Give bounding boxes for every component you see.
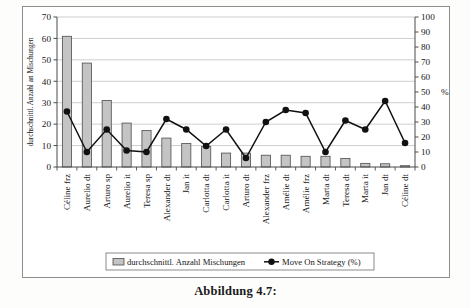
data-point-marker xyxy=(243,155,250,162)
combo-chart: 010203040506070 0102030405060708090100 C… xyxy=(23,7,449,277)
y-axis-right-tick-label: 70 xyxy=(421,57,431,67)
x-axis-category-label: Carlotta dt xyxy=(201,174,211,213)
data-point-marker xyxy=(322,149,329,156)
bar xyxy=(62,36,71,167)
x-axis-category-label: Amélie dt xyxy=(281,174,291,211)
y-axis-right-tick-label: 10 xyxy=(421,147,431,157)
bars-group xyxy=(62,36,409,167)
y-axis-left-tick-label: 60 xyxy=(42,34,52,44)
data-point-marker xyxy=(203,143,210,150)
legend-swatch-bars xyxy=(113,259,124,266)
legend-label-moveon: Move On Strategy (%) xyxy=(282,257,361,267)
x-axis-category-label: Aurelio it xyxy=(122,174,132,210)
x-axis-category-label: Amélie frz xyxy=(301,174,311,213)
data-point-marker xyxy=(382,98,389,105)
bar xyxy=(341,158,350,167)
x-axis-category-label: Arturo dt xyxy=(241,174,251,208)
data-point-marker xyxy=(103,126,110,133)
x-axis-category-label: Arturo sp xyxy=(102,174,112,209)
y-left-tick-labels: 010203040506070 xyxy=(42,12,52,172)
bar xyxy=(162,138,171,167)
data-point-marker xyxy=(302,110,309,117)
data-point-marker xyxy=(402,140,409,147)
y-right-tick-labels: 0102030405060708090100 xyxy=(421,12,435,172)
bar xyxy=(182,143,191,167)
y-axis-left-title: durchschnittl. Anzahl an Mischungen xyxy=(26,37,35,146)
data-point-marker xyxy=(223,126,230,133)
data-point-marker xyxy=(84,149,91,156)
y-axis-left-tick-label: 70 xyxy=(42,12,52,22)
line-series-group xyxy=(64,98,409,162)
bar xyxy=(361,163,370,167)
data-point-marker xyxy=(362,126,369,133)
data-point-marker xyxy=(342,117,349,124)
bar xyxy=(261,155,270,167)
chart-frame: 010203040506070 0102030405060708090100 C… xyxy=(22,6,450,278)
y-axis-left-tick-label: 40 xyxy=(42,77,52,87)
y-axis-left-tick-label: 30 xyxy=(42,98,52,108)
y-axis-right-tick-label: 20 xyxy=(421,132,431,142)
bar xyxy=(281,155,290,167)
y-axis-right-tick-label: 30 xyxy=(421,117,431,127)
data-point-marker xyxy=(282,107,289,114)
y-axis-right-tick-label: 100 xyxy=(421,12,435,22)
x-axis-category-label: Alexander frz xyxy=(261,174,271,224)
y-axis-right-tick-label: 50 xyxy=(421,87,431,97)
x-axis-category-label: Marta dt xyxy=(321,174,331,206)
y-axis-right-tick-label: 80 xyxy=(421,42,431,52)
x-axis-category-label: Alexander dt xyxy=(162,174,172,222)
legend-box: durchschnittl. Anzahl MischungenMove On … xyxy=(106,253,374,270)
x-axis-category-label: Aurelio dt xyxy=(82,174,92,212)
data-point-marker xyxy=(263,119,270,126)
bar xyxy=(221,153,230,167)
data-point-marker xyxy=(143,149,150,156)
figure-container: 010203040506070 0102030405060708090100 C… xyxy=(0,0,471,308)
x-axis-category-label: Carlotta it xyxy=(221,174,231,211)
y-axis-left-tick-label: 50 xyxy=(42,55,52,65)
y-axis-left-tick-label: 10 xyxy=(42,141,52,151)
figure-caption: Abbildung 4.7: xyxy=(0,284,471,299)
x-axis-category-label: Céline frz xyxy=(62,174,72,210)
legend-label-bars: durchschnittl. Anzahl Mischungen xyxy=(127,257,246,267)
x-axis-category-label: Jan dt xyxy=(380,174,390,196)
data-point-marker xyxy=(163,116,170,123)
legend-marker-moveon xyxy=(268,259,274,265)
data-point-marker xyxy=(64,108,71,115)
y-axis-right-tick-label: 60 xyxy=(421,72,431,82)
bar xyxy=(202,147,211,167)
x-category-labels: Céline frzAurelio dtArturo spAurelio itT… xyxy=(62,174,410,225)
y-axis-right-tick-label: 0 xyxy=(421,162,426,172)
x-axis-category-label: Jan it xyxy=(181,174,191,194)
y-axis-right-tick-label: 90 xyxy=(421,27,431,37)
y-axis-left-tick-label: 0 xyxy=(46,162,51,172)
trend-line xyxy=(67,101,405,158)
y-axis-right-title: % xyxy=(441,87,449,97)
data-point-marker xyxy=(123,147,130,154)
y-axis-right-tick-label: 40 xyxy=(421,102,431,112)
x-axis-category-label: Céline dt xyxy=(400,174,410,208)
data-point-marker xyxy=(183,126,190,133)
bar xyxy=(301,156,310,167)
x-axis-category-label: Marta it xyxy=(360,174,370,204)
bar xyxy=(321,156,330,167)
bar xyxy=(122,123,131,167)
x-axis-category-label: Teresa dt xyxy=(341,174,351,207)
y-axis-left-tick-label: 20 xyxy=(42,119,52,129)
x-axis-category-label: Teresa sp xyxy=(142,174,152,208)
